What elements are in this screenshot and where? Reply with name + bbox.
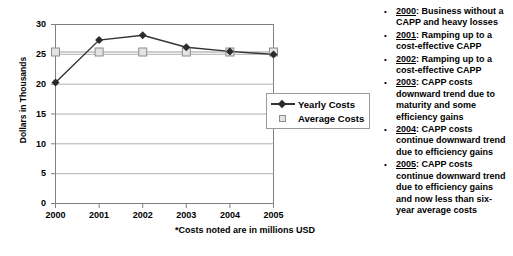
list-item: • 2000: Business without a CAPP and heav… [382,6,510,29]
y-tick-label-5: 5 [20,168,46,178]
note-year-2002: 2002 [396,54,416,64]
note-text-2001: 2001: Ramping up to a cost-effective CAP… [396,30,510,53]
list-item: • 2003: CAPP costs downward trend due to… [382,77,510,123]
x-tick-label-2005: 2005 [254,210,294,220]
legend-item-yearly-costs: Yearly Costs [270,97,364,111]
y-tick-label-15: 15 [20,109,46,119]
x-tick-label-2001: 2001 [79,210,119,220]
x-tick-label-2002: 2002 [123,210,163,220]
bullet-icon: • [382,30,396,42]
y-tick-label-20: 20 [20,79,46,89]
bullet-icon: • [382,54,396,66]
list-item: • 2002: Ramping up to a cost-effective C… [382,54,510,77]
note-text-2002: 2002: Ramping up to a cost-effective CAP… [396,54,510,77]
list-item: • 2004: CAPP costs continue downward tre… [382,124,510,158]
note-text-2003: 2003: CAPP costs downward trend due to m… [396,77,510,123]
y-tick-label-0: 0 [20,198,46,208]
bullet-icon: • [382,159,396,171]
chart-legend: Yearly Costs Average Costs [266,93,370,129]
x-tick-label-2003: 2003 [166,210,206,220]
list-item: • 2001: Ramping up to a cost-effective C… [382,30,510,53]
y-tick-label-30: 30 [20,19,46,29]
note-year-2005: 2005 [396,159,416,169]
note-year-2000: 2000 [396,6,416,16]
legend-square-marker-icon [270,112,296,124]
chart-footnote: *Costs noted are in millions USD [175,225,315,235]
legend-label-yearly-costs: Yearly Costs [296,99,355,110]
bullet-icon: • [382,6,396,18]
x-tick-label-2004: 2004 [210,210,250,220]
note-year-2004: 2004 [396,124,416,134]
note-text-2000: 2000: Business without a CAPP and heavy … [396,6,510,29]
note-year-2001: 2001 [396,30,416,40]
legend-label-average-costs: Average Costs [296,113,364,124]
legend-diamond-marker-icon [270,98,296,110]
bullet-icon: • [382,77,396,89]
list-item: • 2005: CAPP costs continue downward tre… [382,159,510,216]
note-text-2004: 2004: CAPP costs continue downward trend… [396,124,510,158]
legend-item-average-costs: Average Costs [270,111,364,125]
x-tick-label-2000: 2000 [36,210,76,220]
x-axis-ticks [56,204,274,209]
y-tick-label-25: 25 [20,49,46,59]
note-year-2003: 2003 [396,77,416,87]
y-tick-label-10: 10 [20,139,46,149]
notes-list: • 2000: Business without a CAPP and heav… [382,6,510,217]
note-text-2005: 2005: CAPP costs continue downward trend… [396,159,510,216]
bullet-icon: • [382,124,396,136]
